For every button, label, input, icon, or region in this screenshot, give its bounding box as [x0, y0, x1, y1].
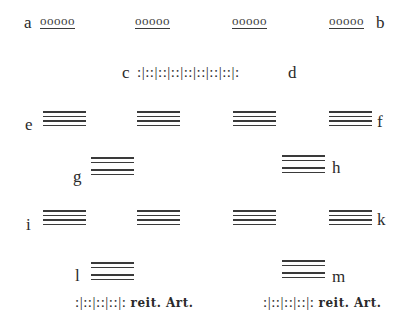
line-stack-i2: [137, 210, 180, 228]
label-b: b: [376, 14, 385, 31]
label-m: m: [332, 268, 345, 285]
line-stack-l: [91, 262, 134, 283]
line-stack-e2: [137, 111, 180, 129]
line-stack-g: [91, 157, 134, 178]
label-f: f: [377, 113, 383, 130]
reit-art-annotation-left: reit. Art.: [131, 296, 194, 310]
label-d: d: [288, 64, 297, 81]
line-stack-e3: [233, 111, 276, 129]
circle-group-1: ooooo: [40, 14, 75, 29]
line-stack-i3: [233, 210, 276, 228]
reit-art-annotation-right: reit. Art.: [319, 296, 382, 310]
label-h: h: [332, 159, 341, 176]
line-stack-e1: [43, 111, 86, 129]
label-k: k: [377, 211, 386, 228]
label-g: g: [73, 168, 82, 185]
barline-pattern-right: :|::|::|::|:: [263, 294, 314, 310]
barline-pattern-cd: :|::|::|::|::|::|::|::|:: [137, 65, 240, 80]
barline-annotation-right: :|::|::|::|: reit. Art.: [263, 295, 381, 311]
line-stack-h: [282, 155, 325, 176]
label-e: e: [25, 116, 33, 133]
line-stack-i4: [329, 210, 372, 228]
label-c: c: [122, 64, 130, 81]
barline-annotation-left: :|::|::|::|: reit. Art.: [75, 295, 193, 311]
line-stack-e4: [329, 111, 372, 129]
circle-group-2: ooooo: [135, 14, 170, 29]
label-l: l: [75, 267, 80, 284]
line-stack-m: [282, 260, 325, 281]
line-stack-i1: [43, 210, 86, 228]
label-i: i: [26, 216, 31, 233]
circle-group-4: ooooo: [329, 14, 364, 29]
label-a: a: [24, 14, 32, 31]
circle-group-3: ooooo: [232, 14, 267, 29]
barline-pattern-left: :|::|::|::|:: [75, 294, 126, 310]
